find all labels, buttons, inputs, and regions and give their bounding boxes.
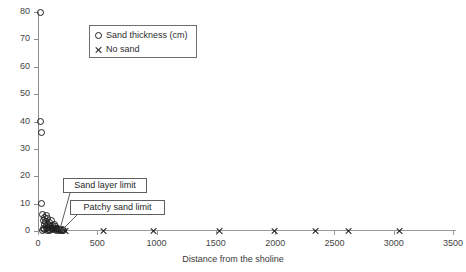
data-point-no-sand	[396, 227, 404, 235]
scatter-chart: 01020304050607080 0500100015002000250030…	[0, 0, 466, 272]
x-axis-tick-label: 2500	[312, 238, 356, 248]
annotation-sand-layer-limit: Sand layer limit	[63, 178, 147, 193]
data-point-no-sand	[345, 227, 353, 235]
data-point-sand-thickness	[37, 118, 44, 125]
x-axis-tick-label: 0	[16, 238, 60, 248]
annotation-patchy-sand-limit: Patchy sand limit	[70, 200, 165, 215]
x-axis-tick	[394, 231, 395, 235]
data-point-no-sand	[99, 227, 107, 235]
cross-marker-icon	[94, 45, 103, 54]
data-point-no-sand	[61, 227, 69, 235]
y-axis-tick-label: 40	[4, 117, 30, 126]
y-axis-tick-label: 30	[4, 144, 30, 153]
y-axis-tick-label: 10	[4, 199, 30, 208]
x-axis-tick-label: 3500	[431, 238, 466, 248]
x-axis-tick-label: 1500	[194, 238, 238, 248]
y-axis-tick-label: 70	[4, 34, 30, 43]
data-point-no-sand	[150, 227, 158, 235]
legend-item-sand-thickness: Sand thickness (cm)	[94, 28, 192, 42]
data-point-sand-thickness	[38, 200, 45, 207]
y-axis-tick-label: 60	[4, 62, 30, 71]
x-axis-tick	[453, 231, 454, 235]
data-point-no-sand	[271, 227, 279, 235]
y-axis-tick-label: 50	[4, 89, 30, 98]
chart-legend: Sand thickness (cm) No sand	[89, 25, 197, 58]
circle-marker-icon	[94, 31, 103, 40]
y-axis-tick-label: 0	[4, 226, 30, 235]
data-point-sand-thickness	[37, 9, 44, 16]
y-axis-tick-label: 20	[4, 171, 30, 180]
data-point-sand-thickness	[38, 129, 45, 136]
x-axis-tick-label: 2000	[253, 238, 297, 248]
x-axis-tick-label: 1000	[135, 238, 179, 248]
x-axis-tick-label: 500	[75, 238, 119, 248]
x-axis-tick	[97, 231, 98, 235]
data-point-no-sand	[215, 227, 223, 235]
legend-label-sand-thickness: Sand thickness (cm)	[106, 30, 188, 40]
data-point-no-sand	[311, 227, 319, 235]
y-axis-tick-label: 80	[4, 7, 30, 16]
x-axis-tick-label: 3000	[372, 238, 416, 248]
x-axis-title: Distance from the sholine	[0, 254, 466, 264]
legend-item-no-sand: No sand	[94, 42, 192, 56]
legend-label-no-sand: No sand	[106, 44, 140, 54]
x-axis-tick	[334, 231, 335, 235]
